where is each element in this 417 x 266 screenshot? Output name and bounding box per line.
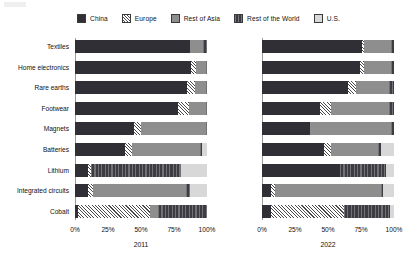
- x-tick-label: 100%: [386, 226, 403, 233]
- bar-segment-row: [206, 102, 207, 115]
- corner-artifact: [4, 2, 26, 7]
- bar-segment-roa: [195, 81, 206, 94]
- bar-segment-row: [391, 40, 394, 53]
- bar-segment-row: [340, 164, 386, 177]
- bar-segment-row: [344, 205, 390, 218]
- bar-segment-us: [190, 184, 207, 197]
- bar-segment-europe: [134, 122, 141, 135]
- bar-segment-europe: [348, 81, 356, 94]
- bar-segment-row: [206, 61, 207, 74]
- bar-row: [75, 102, 207, 115]
- legend-swatch-row-icon: [234, 14, 243, 23]
- bar-segment-roa: [331, 102, 389, 115]
- bar-segment-row: [158, 205, 207, 218]
- legend-label: Europe: [135, 15, 157, 22]
- bar-segment-china: [262, 205, 271, 218]
- bar-segment-roa: [356, 81, 389, 94]
- bar-segment-us: [181, 164, 207, 177]
- bar-row: [262, 81, 394, 94]
- bar-segment-row: [391, 61, 394, 74]
- bars-2011: [75, 38, 207, 220]
- bar-segment-europe: [78, 205, 151, 218]
- bar-segment-row: [91, 164, 181, 177]
- x-tick-label: 50%: [134, 226, 147, 233]
- bar-segment-china: [262, 164, 340, 177]
- bar-segment-row: [206, 122, 207, 135]
- bar-segment-roa: [275, 184, 381, 197]
- bar-segment-roa: [364, 40, 392, 53]
- bar-segment-china: [262, 184, 271, 197]
- bar-segment-china: [75, 122, 134, 135]
- category-label: Cobalt: [50, 205, 69, 218]
- bar-segment-row: [203, 40, 207, 53]
- legend-item-china[interactable]: China: [77, 14, 108, 23]
- x-tick-label: 75%: [167, 226, 180, 233]
- legend-swatch-roa-icon: [171, 14, 180, 23]
- category-axis-labels: TextilesHome electronicsRare earthsFootw…: [0, 38, 72, 220]
- bar-segment-roa: [331, 143, 379, 156]
- bar-segment-china: [262, 81, 348, 94]
- bar-row: [75, 184, 207, 197]
- legend-item-roa[interactable]: Rest of Asia: [171, 14, 220, 23]
- chart-legend: ChinaEuropeRest of AsiaRest of the World…: [0, 14, 417, 23]
- bar-segment-china: [75, 102, 178, 115]
- category-label: Magnets: [44, 122, 69, 135]
- bar-segment-china: [262, 102, 320, 115]
- legend-swatch-europe-icon: [122, 14, 131, 23]
- category-label: Textiles: [47, 40, 69, 53]
- bar-segment-china: [75, 81, 187, 94]
- legend-label: Rest of Asia: [184, 15, 220, 22]
- bar-segment-roa: [196, 61, 205, 74]
- x-axis-ticks-2022: 0%25%50%75%100%: [262, 226, 394, 238]
- x-tick-label: 25%: [101, 226, 114, 233]
- category-label: Lithium: [48, 164, 69, 177]
- panel-2022: [262, 38, 394, 224]
- legend-label: Rest of the World: [247, 15, 300, 22]
- panel-title-2022: 2022: [320, 241, 335, 248]
- bar-segment-china: [262, 40, 362, 53]
- category-label: Batteries: [43, 143, 69, 156]
- bar-segment-row: [389, 102, 394, 115]
- x-tick-label: 0%: [70, 226, 80, 233]
- x-tick-label: 50%: [321, 226, 334, 233]
- bar-segment-europe: [178, 102, 189, 115]
- legend-item-row[interactable]: Rest of the World: [234, 14, 300, 23]
- bar-row: [262, 40, 394, 53]
- bar-segment-us: [386, 164, 394, 177]
- bar-segment-us: [381, 143, 394, 156]
- bar-row: [262, 102, 394, 115]
- bar-row: [262, 184, 394, 197]
- bar-segment-roa: [93, 184, 185, 197]
- bar-segment-europe: [187, 81, 195, 94]
- bar-segment-china: [75, 61, 191, 74]
- bar-segment-row: [206, 81, 207, 94]
- legend-label: U.S.: [327, 15, 340, 22]
- bar-segment-roa: [190, 40, 203, 53]
- bar-row: [75, 143, 207, 156]
- bar-segment-europe: [125, 143, 132, 156]
- bar-segment-roa: [132, 143, 201, 156]
- bar-segment-china: [262, 143, 324, 156]
- x-tick-label: 100%: [199, 226, 216, 233]
- bar-row: [262, 122, 394, 135]
- bar-row: [75, 122, 207, 135]
- x-axis-ticks-2011: 0%25%50%75%100%: [75, 226, 207, 238]
- bar-segment-roa: [189, 102, 206, 115]
- bar-segment-us: [202, 143, 207, 156]
- bar-segment-china: [75, 164, 88, 177]
- x-tick-label: 75%: [354, 226, 367, 233]
- bar-segment-us: [383, 184, 394, 197]
- legend-label: China: [90, 15, 108, 22]
- bars-2022: [262, 38, 394, 220]
- bar-segment-us: [390, 205, 394, 218]
- legend-item-europe[interactable]: Europe: [122, 14, 157, 23]
- x-tick-label: 25%: [288, 226, 301, 233]
- bar-row: [75, 40, 207, 53]
- legend-item-us[interactable]: U.S.: [314, 14, 340, 23]
- bar-segment-china: [75, 40, 190, 53]
- x-tick-label: 0%: [257, 226, 267, 233]
- bar-row: [75, 164, 207, 177]
- category-label: Rare earths: [35, 81, 69, 94]
- legend-swatch-us-icon: [314, 14, 323, 23]
- bar-segment-europe: [324, 143, 331, 156]
